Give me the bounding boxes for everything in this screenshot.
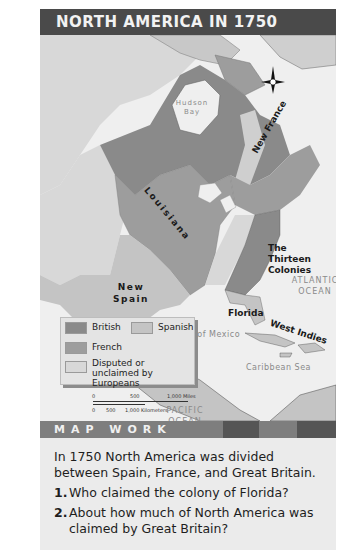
label-atlantic-ocean: ATLANTIC OCEAN (290, 275, 336, 297)
question-text: About how much of North America was clai… (69, 505, 329, 537)
legend-label: British (92, 322, 121, 332)
legend-item-spanish: Spanish (131, 322, 194, 334)
question-number: 1. (54, 485, 69, 501)
map-work-intro: In 1750 North America was divided betwee… (54, 449, 329, 481)
map-scale: 0 500 1,000 Miles 0 500 1,000 Kilometers (92, 393, 202, 419)
question-text: Who claimed the colony of Florida? (69, 485, 289, 501)
question-1: 1. Who claimed the colony of Florida? (54, 485, 329, 501)
french-swatch (65, 342, 87, 354)
label-hudson-bay: Hudson Bay (172, 99, 212, 117)
question-2: 2. About how much of North America was c… (54, 505, 329, 537)
map-title: NORTH AMERICA IN 1750 (40, 9, 336, 35)
disputed-swatch (65, 361, 87, 373)
scale-km-0: 0 (92, 407, 95, 413)
legend-label: Spanish (158, 322, 194, 332)
map-legend: British Spanish French Disputed or uncla… (60, 317, 195, 385)
scale-bar-miles (93, 401, 188, 402)
legend-label: Disputed or unclaimed by Europeans (92, 358, 190, 388)
legend-item-disputed: Disputed or unclaimed by Europeans (65, 358, 190, 388)
question-number: 2. (54, 505, 69, 537)
decorative-block (297, 421, 336, 438)
legend-item-french: French (65, 342, 122, 354)
scale-miles-0: 0 (92, 393, 95, 399)
label-thirteen-colonies: The Thirteen Colonies (268, 243, 318, 276)
map-work-bar: MAP WORK (40, 421, 336, 438)
legend-label: French (92, 342, 122, 352)
british-swatch (65, 322, 87, 334)
scale-km-500: 500 (106, 407, 116, 413)
scale-bar-km (93, 404, 145, 405)
map-page: NORTH AMERICA IN 1750 (40, 9, 336, 550)
decorative-block (223, 421, 259, 438)
label-florida: Florida (228, 308, 263, 318)
map-work-heading: MAP WORK (54, 421, 172, 438)
scale-km-1000: 1,000 Kilometers (125, 407, 168, 413)
decorative-block (259, 421, 297, 438)
scale-miles-500: 500 (130, 393, 140, 399)
scale-miles-1000: 1,000 Miles (167, 393, 196, 399)
legend-item-british: British (65, 322, 121, 334)
label-caribbean-sea: Caribbean Sea (246, 363, 311, 372)
map-work-content: In 1750 North America was divided betwee… (54, 449, 329, 541)
label-great-lakes: Great Lakes (198, 163, 228, 179)
spanish-swatch (131, 322, 153, 334)
label-new-spain: New Spain (113, 281, 149, 305)
